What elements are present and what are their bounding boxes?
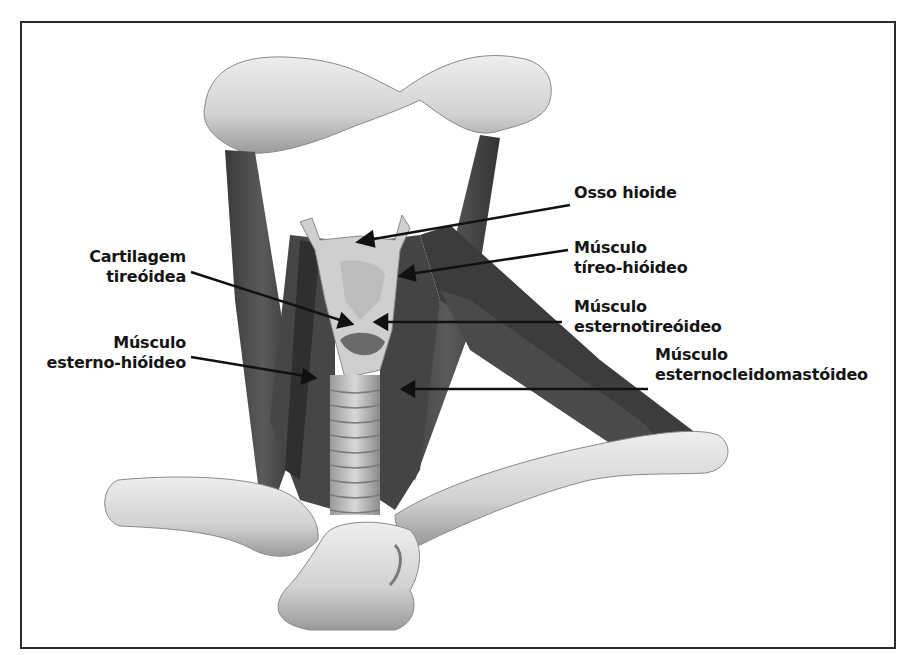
- label-musculo-tireo-hioideo: Músculo tíreo-hióideo: [574, 238, 688, 278]
- label-line: esternotireóideo: [574, 317, 722, 337]
- label-line: esternocleidomastóideo: [655, 365, 868, 385]
- label-line: Músculo: [655, 345, 868, 365]
- label-line: Cartilagem: [60, 247, 186, 267]
- label-line: tíreo-hióideo: [574, 258, 688, 278]
- trachea: [330, 375, 380, 515]
- label-musculo-esterno-hioideo: Músculo esterno-hióideo: [40, 333, 186, 373]
- label-musculo-esternocleidomastoideo: Músculo esternocleidomastóideo: [655, 345, 868, 385]
- label-line: Músculo: [574, 238, 688, 258]
- neck-anatomy-illustration: [0, 0, 912, 655]
- label-line: Osso hioide: [574, 183, 677, 203]
- label-line: Músculo: [40, 333, 186, 353]
- label-line: esterno-hióideo: [40, 353, 186, 373]
- label-osso-hioide: Osso hioide: [574, 183, 677, 203]
- label-line: tireóidea: [60, 267, 186, 287]
- label-musculo-esternotireoideo: Músculo esternotireóideo: [574, 297, 722, 337]
- label-cartilagem-tireoidea: Cartilagem tireóidea: [60, 247, 186, 287]
- label-line: Músculo: [574, 297, 722, 317]
